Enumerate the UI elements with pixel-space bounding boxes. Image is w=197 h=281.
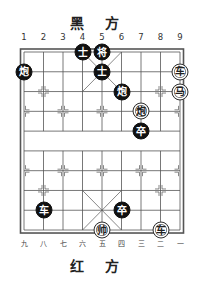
black-piece-卒[interactable]: 卒 <box>133 123 150 140</box>
black-piece-卒[interactable]: 卒 <box>113 202 130 219</box>
red-piece-车[interactable]: 车 <box>152 222 169 239</box>
file-numeral-1: 九 <box>21 238 28 248</box>
black-piece-炮[interactable]: 炮 <box>113 83 130 100</box>
red-piece-帅[interactable]: 帅 <box>94 222 111 239</box>
file-numeral-6: 四 <box>118 238 125 248</box>
file-numeral-3: 七 <box>60 238 67 248</box>
file-numeral-5: 五 <box>99 238 106 248</box>
black-piece-士[interactable]: 士 <box>74 44 91 61</box>
file-numeral-2: 八 <box>40 238 47 248</box>
file-numeral-8: 二 <box>157 238 164 248</box>
black-piece-炮[interactable]: 炮 <box>16 63 33 80</box>
file-numeral-9: 一 <box>177 238 184 248</box>
file-numeral-7: 三 <box>138 238 145 248</box>
black-piece-将[interactable]: 将 <box>94 44 111 61</box>
file-numeral-4: 六 <box>79 238 86 248</box>
red-piece-车[interactable]: 车 <box>172 63 189 80</box>
black-piece-士[interactable]: 士 <box>94 63 111 80</box>
red-side-label: 红 方 <box>0 255 197 275</box>
black-piece-车[interactable]: 车 <box>35 202 52 219</box>
red-piece-炮[interactable]: 炮 <box>133 103 150 120</box>
red-piece-马[interactable]: 马 <box>172 83 189 100</box>
